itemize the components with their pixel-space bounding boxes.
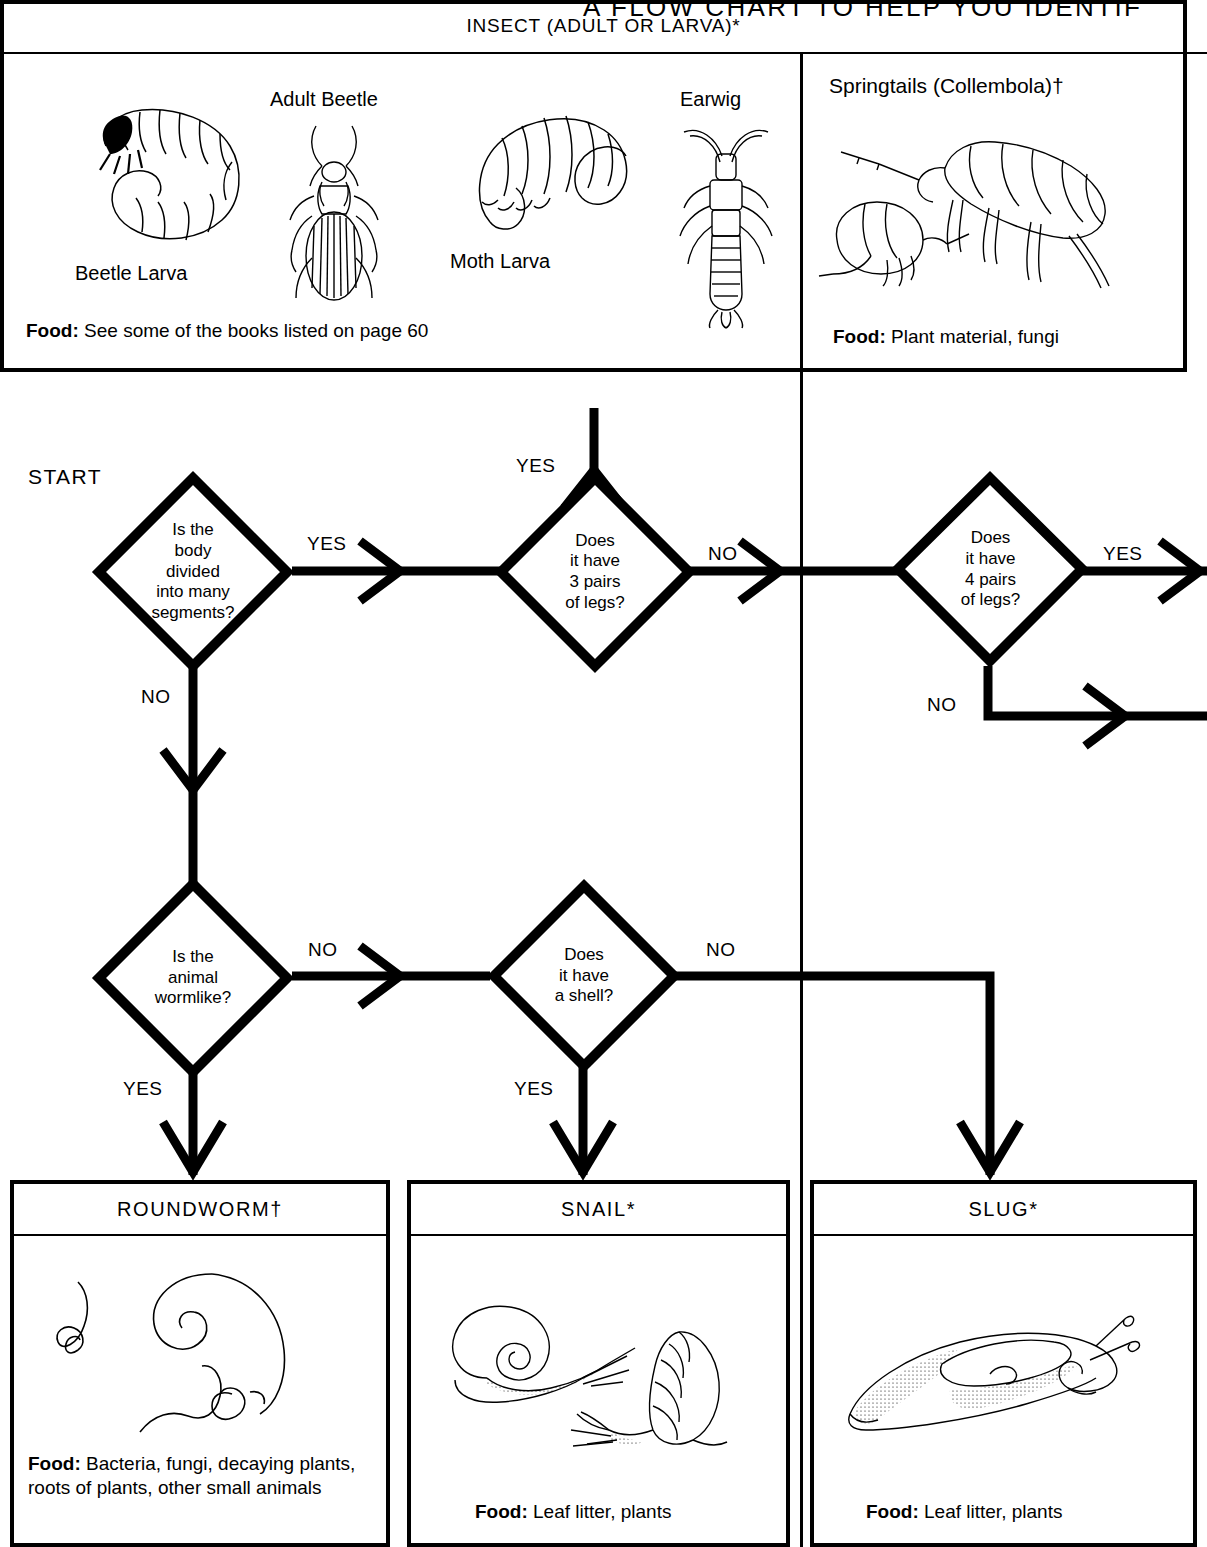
outcome-snail: SNAIL* [407, 1180, 790, 1547]
line: 4 pairs [965, 570, 1016, 591]
outcome-slug: SLUG* Food: Leaf litter, plants [810, 1180, 1197, 1547]
edge-label-four-legs-yes: YES [1103, 543, 1143, 565]
outcome-snail-header: SNAIL* [411, 1184, 786, 1236]
edge-label-wormlike-yes: YES [123, 1078, 163, 1100]
line: Does [564, 945, 604, 966]
decision-shell[interactable]: Does it have a shell? [488, 880, 680, 1072]
line: Is the [172, 947, 214, 968]
edge-label-three-legs-yes: YES [516, 455, 556, 477]
outcome-slug-food: Food: Leaf litter, plants [866, 1500, 1183, 1524]
line: it have [559, 966, 609, 987]
outcome-slug-food-label: Food: [866, 1501, 919, 1522]
line: a shell? [555, 986, 614, 1007]
edge-label-shell-no: NO [706, 939, 736, 961]
outcome-slug-header: SLUG* [814, 1184, 1193, 1236]
decision-four-pairs-legs[interactable]: Does it have 4 pairs of legs? [893, 472, 1088, 667]
line: it have [965, 549, 1015, 570]
outcome-roundworm-header: ROUNDWORM† [14, 1184, 386, 1236]
outcome-roundworm-food: Food: Bacteria, fungi, decaying plants, … [28, 1452, 376, 1501]
outcome-slug-title: SLUG* [968, 1198, 1038, 1221]
snail-illustration [431, 1294, 771, 1474]
line: 3 pairs [569, 572, 620, 593]
line: animal [168, 968, 218, 989]
line: body [175, 541, 212, 562]
decision-wormlike-text: Is the animal wormlike? [93, 878, 293, 1078]
decision-segments[interactable]: Is the body divided into many segments? [93, 472, 293, 672]
outcome-snail-food-text: Leaf litter, plants [533, 1501, 671, 1522]
edge-label-four-legs-no: NO [927, 694, 957, 716]
edge-label-three-legs-no: NO [708, 543, 738, 565]
line: of legs? [565, 593, 625, 614]
line: segments? [151, 603, 234, 624]
decision-four-pairs-legs-text: Does it have 4 pairs of legs? [893, 472, 1088, 667]
roundworm-illustration [54, 1264, 354, 1444]
line: Is the [172, 520, 214, 541]
line: Does [971, 528, 1011, 549]
decision-three-pairs-legs-text: Does it have 3 pairs of legs? [495, 472, 695, 672]
edge-label-segments-no: NO [141, 686, 171, 708]
line: into many [156, 582, 230, 603]
decision-wormlike[interactable]: Is the animal wormlike? [93, 878, 293, 1078]
outcome-snail-food: Food: Leaf litter, plants [475, 1500, 776, 1524]
outcome-roundworm-food-label: Food: [28, 1453, 81, 1474]
line: Does [575, 531, 615, 552]
edge-label-shell-yes: YES [514, 1078, 554, 1100]
line: it have [570, 551, 620, 572]
decision-segments-text: Is the body divided into many segments? [93, 472, 293, 672]
decision-shell-text: Does it have a shell? [488, 880, 680, 1072]
slug-illustration [840, 1294, 1170, 1454]
outcome-slug-food-text: Leaf litter, plants [924, 1501, 1062, 1522]
outcome-roundworm: ROUNDWORM† Food: Bacteria, fungi, decayi… [10, 1180, 390, 1547]
line: of legs? [961, 590, 1021, 611]
outcome-roundworm-title: ROUNDWORM† [117, 1198, 283, 1221]
decision-three-pairs-legs[interactable]: Does it have 3 pairs of legs? [495, 472, 695, 672]
edge-label-wormlike-no: NO [308, 939, 338, 961]
outcome-snail-title: SNAIL* [561, 1198, 636, 1221]
outcome-snail-food-label: Food: [475, 1501, 528, 1522]
edge-label-segments-yes: YES [307, 533, 347, 555]
line: wormlike? [155, 988, 232, 1009]
line: divided [166, 562, 220, 583]
